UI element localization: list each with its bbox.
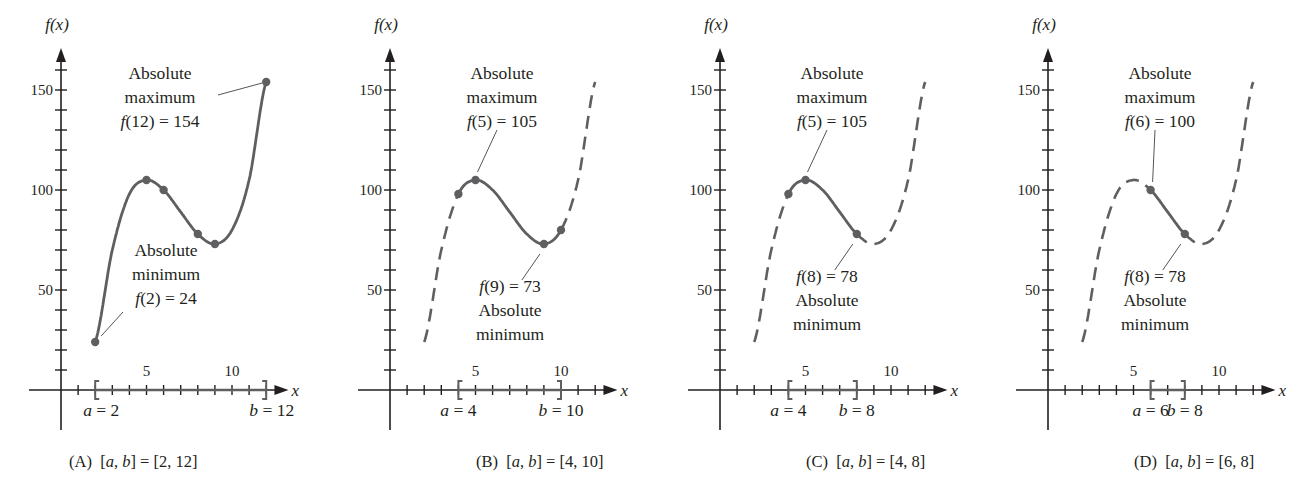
y-tick-label: 100 xyxy=(690,182,713,198)
annotation-line: f(9) = 73 xyxy=(479,276,541,296)
absolute-minimum-label: f(9) = 73Absoluteminimum xyxy=(476,276,544,344)
figure-extreme-values: 50100150510f(x)xa = 2b = 12Absolutemaxim… xyxy=(0,0,1316,499)
data-point xyxy=(211,240,219,248)
b-label: b = 8 xyxy=(1167,400,1203,420)
annotation-line: maximum xyxy=(797,87,868,107)
data-point xyxy=(142,176,150,184)
annotation-line: f(8) = 78 xyxy=(796,266,858,286)
data-point xyxy=(853,230,861,238)
absolute-maximum-label: Absolutemaximumf(5) = 105 xyxy=(797,63,868,131)
data-point xyxy=(194,230,202,238)
curve-solid xyxy=(1151,190,1185,234)
annotation-line: Absolute xyxy=(478,300,541,320)
curve-dashed xyxy=(424,194,458,342)
absolute-maximum-label: Absolutemaximumf(12) = 154 xyxy=(121,63,200,131)
y-tick-label: 50 xyxy=(367,282,382,298)
annotation-line: f(8) = 78 xyxy=(1124,266,1186,286)
y-tick-label: 50 xyxy=(38,282,53,298)
y-tick-label: 50 xyxy=(697,282,712,298)
y-tick-label: 100 xyxy=(31,182,54,198)
data-point xyxy=(557,226,565,234)
absolute-maximum-label: Absolutemaximumf(5) = 105 xyxy=(467,63,538,131)
y-tick-label: 50 xyxy=(1025,282,1040,298)
annotation-line: f(5) = 105 xyxy=(797,111,867,131)
annotation-line: Absolute xyxy=(1128,63,1191,83)
figure-canvas: 50100150510f(x)xa = 2b = 12Absolutemaxim… xyxy=(0,0,1316,499)
annotation-line: maximum xyxy=(1125,87,1196,107)
x-axis-label: x xyxy=(949,381,958,400)
annotation-leader xyxy=(808,130,828,172)
y-tick-label: 150 xyxy=(31,82,54,98)
annotation-line: Absolute xyxy=(470,63,533,83)
x-tick-label: 5 xyxy=(1130,363,1138,379)
a-label: a = 4 xyxy=(770,400,806,420)
curve-solid xyxy=(458,180,561,244)
annotation-line: maximum xyxy=(467,87,538,107)
panel-caption: (A) [a, b] = [2, 12] xyxy=(69,452,197,471)
curve-solid xyxy=(788,180,856,234)
x-axis-label: x xyxy=(619,381,628,400)
data-point xyxy=(540,240,548,248)
y-axis-arrow-icon xyxy=(715,48,725,62)
annotation-line: minimum xyxy=(476,324,544,344)
curve-dashed xyxy=(754,194,788,342)
x-axis-arrow-icon xyxy=(1261,385,1275,395)
y-axis-arrow-icon xyxy=(385,48,395,62)
panel-caption: (B) [a, b] = [4, 10] xyxy=(476,452,604,471)
data-point xyxy=(454,190,462,198)
annotation-line: Absolute xyxy=(800,63,863,83)
panel-d: 50100150510f(x)xa = 6b = 8Absolutemaximu… xyxy=(1016,15,1286,471)
y-tick-label: 100 xyxy=(360,182,383,198)
x-tick-label: 10 xyxy=(225,363,240,379)
panel-caption: (C) [a, b] = [4, 8] xyxy=(806,452,925,471)
annotation-leader xyxy=(478,130,498,172)
absolute-minimum-label: Absoluteminimumf(2) = 24 xyxy=(132,240,200,308)
b-label: b = 8 xyxy=(839,400,875,420)
interval-brackets xyxy=(95,381,266,399)
x-tick-label: 10 xyxy=(554,363,569,379)
absolute-minimum-label: f(8) = 78Absoluteminimum xyxy=(1121,266,1189,334)
b-label: b = 10 xyxy=(539,400,584,420)
absolute-minimum-label: f(8) = 78Absoluteminimum xyxy=(793,266,861,334)
curve-dashed xyxy=(561,82,595,230)
annotation-line: f(2) = 24 xyxy=(135,288,197,308)
a-label: a = 4 xyxy=(440,400,476,420)
b-label: b = 12 xyxy=(249,400,294,420)
annotation-line: minimum xyxy=(1121,314,1189,334)
annotation-leader xyxy=(1153,130,1155,182)
annotation-line: minimum xyxy=(793,314,861,334)
x-axis-arrow-icon xyxy=(933,385,947,395)
y-axis-label: f(x) xyxy=(1032,15,1056,34)
x-tick-label: 10 xyxy=(1212,363,1227,379)
annotation-line: f(12) = 154 xyxy=(121,111,200,131)
annotation-leader xyxy=(101,312,123,336)
a-label: a = 2 xyxy=(83,400,119,420)
x-axis-label: x xyxy=(290,381,299,400)
x-tick-label: 5 xyxy=(143,363,151,379)
annotation-leader xyxy=(218,83,262,95)
annotation-line: minimum xyxy=(132,264,200,284)
data-point xyxy=(1181,230,1189,238)
y-tick-label: 150 xyxy=(1018,82,1041,98)
annotation-line: Absolute xyxy=(134,240,197,260)
a-label: a = 6 xyxy=(1133,400,1169,420)
y-axis-label: f(x) xyxy=(45,15,69,34)
y-axis-arrow-icon xyxy=(1043,48,1053,62)
interval-brackets xyxy=(1151,381,1185,399)
y-axis-label: f(x) xyxy=(374,15,398,34)
panel-b: 50100150510f(x)xa = 4b = 10Absolutemaxim… xyxy=(358,15,628,471)
x-axis-label: x xyxy=(1277,381,1286,400)
absolute-maximum-label: Absolutemaximumf(6) = 100 xyxy=(1125,63,1196,131)
x-axis-arrow-icon xyxy=(603,385,617,395)
y-tick-label: 150 xyxy=(690,82,713,98)
x-axis-arrow-icon xyxy=(274,385,288,395)
y-tick-label: 100 xyxy=(1018,182,1041,198)
interval-brackets xyxy=(458,381,561,399)
y-axis-label: f(x) xyxy=(704,15,728,34)
panel-caption: (D) [a, b] = [6, 8] xyxy=(1134,452,1254,471)
data-point xyxy=(801,176,809,184)
annotation-line: f(6) = 100 xyxy=(1125,111,1195,131)
data-point xyxy=(471,176,479,184)
annotation-line: Absolute xyxy=(1123,290,1186,310)
annotation-line: maximum xyxy=(125,87,196,107)
